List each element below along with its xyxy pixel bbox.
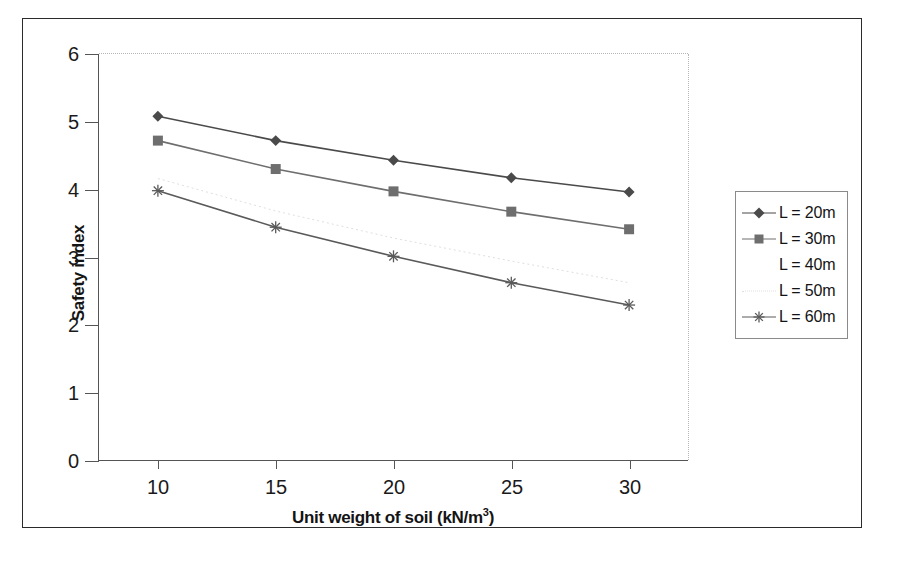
legend-item-l-60m[interactable]: L = 60m (742, 304, 841, 330)
legend-marker-icon (742, 256, 776, 274)
series-l-20m (152, 111, 634, 198)
y-axis-tick (85, 325, 99, 326)
legend: L = 20mL = 30mL = 40mL = 50mL = 60m (735, 191, 848, 339)
y-axis-tick (85, 461, 99, 462)
x-axis-title-tail: ) (489, 508, 494, 527)
y-axis-tick (85, 190, 99, 191)
legend-item-l-30m[interactable]: L = 30m (742, 226, 841, 252)
y-axis-tick-label: 4 (68, 178, 79, 201)
legend-marker-icon (742, 282, 776, 300)
x-axis-tick (512, 460, 513, 469)
legend-item-label: L = 40m (779, 256, 835, 274)
figure-frame: Safety index 01234561015202530 Unit weig… (22, 18, 862, 528)
y-axis-tick-label: 2 (68, 314, 79, 337)
legend-item-label: L = 60m (779, 308, 835, 326)
y-axis-tick (85, 393, 99, 394)
x-axis-tick-label: 25 (501, 476, 523, 499)
legend-marker-icon (742, 230, 776, 248)
y-axis-tick-label: 6 (68, 43, 79, 66)
plot-area: 01234561015202530 (98, 54, 688, 461)
y-axis-tick (85, 54, 99, 55)
y-axis-tick-label: 5 (68, 110, 79, 133)
legend-marker-icon (742, 308, 776, 326)
x-axis-title: Unit weight of soil (kN/m3) (98, 506, 688, 528)
x-axis-tick-label: 20 (383, 476, 405, 499)
legend-item-label: L = 20m (779, 204, 835, 222)
y-axis-tick (85, 122, 99, 123)
x-axis-tick-label: 10 (147, 476, 169, 499)
legend-marker-icon (742, 204, 776, 222)
x-axis-tick-label: 30 (619, 476, 641, 499)
y-axis-tick-label: 0 (68, 450, 79, 473)
x-axis-tick (394, 460, 395, 469)
x-axis-title-base: Unit weight of soil (kN/m (292, 508, 483, 527)
legend-item-label: L = 30m (779, 230, 835, 248)
x-axis-tick-label: 15 (265, 476, 287, 499)
y-axis-tick-label: 1 (68, 382, 79, 405)
legend-item-l-40m[interactable]: L = 40m (742, 252, 841, 278)
x-axis-tick (158, 460, 159, 469)
series-l-40m (158, 162, 629, 258)
legend-item-label: L = 50m (779, 282, 835, 300)
y-axis-title: Safety index (69, 225, 89, 322)
x-axis-tick (276, 460, 277, 469)
series-overlay (99, 54, 688, 460)
legend-item-l-50m[interactable]: L = 50m (742, 278, 841, 304)
y-axis-tick-label: 3 (68, 246, 79, 269)
legend-item-l-20m[interactable]: L = 20m (742, 200, 841, 226)
series-l-30m (153, 136, 634, 235)
y-axis-tick (85, 258, 99, 259)
x-axis-tick (630, 460, 631, 469)
